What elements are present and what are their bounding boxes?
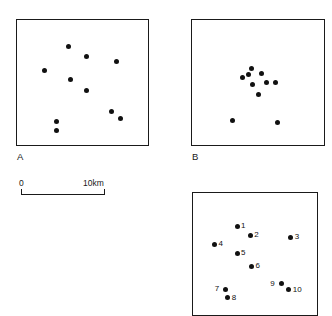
map-point-b-5: [264, 80, 269, 85]
map-point-number-3: 3: [295, 233, 299, 241]
map-point-c-10: [286, 287, 291, 292]
map-point-number-7: 7: [215, 285, 219, 293]
map-point-c-6: [249, 264, 254, 269]
map-point-a-2: [84, 54, 89, 59]
map-point-b-8: [256, 92, 261, 97]
scale-tick-start: [21, 189, 22, 195]
map-point-b-10: [275, 120, 280, 125]
map-point-a-9: [54, 119, 59, 124]
map-point-a-10: [54, 128, 59, 133]
map-point-b-4: [246, 72, 251, 77]
map-point-number-8: 8: [232, 294, 236, 302]
panel-c-map-frame: 12345678910: [192, 192, 318, 316]
map-point-c-3: [288, 235, 293, 240]
map-point-b-2: [259, 71, 264, 76]
map-point-a-5: [114, 59, 119, 64]
map-point-number-4: 4: [218, 240, 222, 248]
map-point-c-7: [223, 287, 228, 292]
map-point-number-6: 6: [256, 262, 260, 270]
map-point-b-7: [250, 82, 255, 87]
map-point-number-5: 5: [241, 249, 245, 257]
map-point-number-2: 2: [254, 231, 258, 239]
map-point-b-1: [249, 66, 254, 71]
map-point-a-4: [68, 77, 73, 82]
map-point-c-8: [225, 295, 230, 300]
map-point-number-9: 9: [270, 280, 274, 288]
map-point-a-1: [66, 44, 71, 49]
panel-a-label: A: [17, 152, 24, 162]
map-point-number-1: 1: [241, 222, 245, 230]
map-point-c-5: [235, 251, 240, 256]
map-point-a-7: [109, 109, 114, 114]
map-point-b-6: [273, 80, 278, 85]
map-point-b-9: [230, 118, 235, 123]
map-point-c-2: [248, 233, 253, 238]
distance-scale-bar: 0 10km: [18, 179, 110, 203]
map-point-c-9: [279, 281, 284, 286]
panel-b-label: B: [192, 152, 199, 162]
map-point-a-6: [84, 88, 89, 93]
map-point-number-10: 10: [293, 286, 302, 294]
map-point-b-3: [240, 75, 245, 80]
panel-b-map-frame: [191, 19, 325, 146]
map-point-a-8: [118, 116, 123, 121]
scale-label-zero: 0: [19, 179, 24, 188]
scale-label-max: 10km: [83, 179, 104, 188]
scale-bar-line: [21, 194, 105, 195]
map-point-a-3: [42, 68, 47, 73]
map-point-c-1: [235, 224, 240, 229]
scale-tick-end: [104, 189, 105, 195]
panel-a-map-frame: [16, 19, 149, 146]
map-point-c-4: [212, 242, 217, 247]
